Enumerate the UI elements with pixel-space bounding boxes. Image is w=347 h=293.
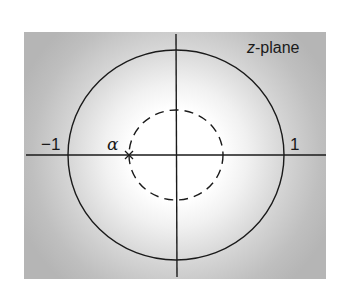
neg-one-label: −1	[41, 135, 60, 154]
pos-one-label: 1	[290, 135, 299, 154]
alpha-label: α	[107, 134, 119, 154]
z-plane-label: z-plane	[246, 39, 300, 56]
z-plane-diagram: z-plane −1 1 α	[0, 0, 347, 293]
imaginary-axis	[176, 34, 177, 277]
